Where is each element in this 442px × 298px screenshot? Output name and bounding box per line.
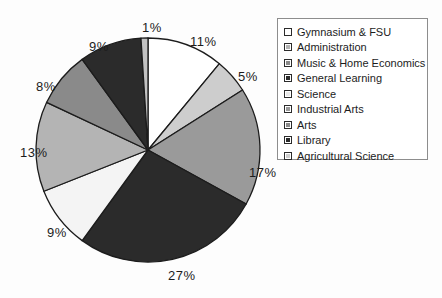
legend-swatch-icon	[284, 28, 292, 36]
legend-item[interactable]: Agricultural Science	[284, 148, 427, 163]
slice-label-administration: 5%	[238, 69, 258, 84]
slice-label-music-home-economics: 17%	[249, 165, 277, 180]
slice-label-library: 9%	[89, 39, 109, 54]
legend-swatch-icon	[284, 105, 292, 113]
slice-label-arts: 8%	[36, 79, 56, 94]
legend-item[interactable]: General Learning	[284, 71, 427, 86]
legend-item[interactable]: Administration	[284, 40, 427, 55]
slice-label-industrial-arts: 13%	[20, 145, 48, 160]
legend-item[interactable]: Library	[284, 133, 427, 148]
legend-swatch-icon	[284, 74, 292, 82]
slice-label-gymnasium: 11%	[190, 34, 217, 49]
legend-swatch-icon	[284, 43, 292, 51]
legend-swatch-icon	[284, 59, 292, 67]
legend-swatch-icon	[284, 121, 292, 129]
legend-item-label: Science	[297, 88, 336, 100]
legend-item-label: Agricultural Science	[297, 150, 394, 162]
legend-item-label: Music & Home Economics	[297, 57, 425, 69]
legend-item-label: Arts	[297, 119, 317, 131]
legend-item-label: Administration	[297, 41, 367, 53]
pie-svg	[34, 36, 262, 264]
legend-item[interactable]: Music & Home Economics	[284, 55, 427, 70]
legend-swatch-icon	[284, 90, 292, 98]
legend-item[interactable]: Gymnasium & FSU	[284, 24, 427, 39]
legend-item[interactable]: Arts	[284, 117, 427, 132]
pie-slice-group	[36, 38, 260, 262]
pie-chart-figure: 1% 11% 5% 17% 27% 9% 13% 8% 9% Gymnasium…	[0, 0, 442, 298]
legend-swatch-icon	[284, 152, 292, 160]
slice-label-science: 9%	[47, 225, 67, 240]
legend-item[interactable]: Science	[284, 86, 427, 101]
slice-label-general-learning: 27%	[168, 268, 196, 283]
slice-label-agricultural-science: 1%	[142, 20, 162, 35]
legend-item-label: Industrial Arts	[297, 103, 364, 115]
legend-item-label: Library	[297, 134, 331, 146]
legend-swatch-icon	[284, 136, 292, 144]
legend-item-label: General Learning	[297, 72, 382, 84]
legend-item-label: Gymnasium & FSU	[297, 26, 391, 38]
pie-graphic	[34, 36, 262, 264]
legend: Gymnasium & FSUAdministrationMusic & Hom…	[277, 18, 428, 160]
legend-item[interactable]: Industrial Arts	[284, 102, 427, 117]
